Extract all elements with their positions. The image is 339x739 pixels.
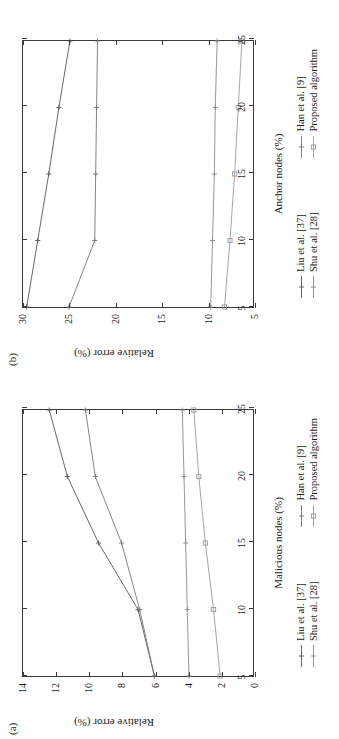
panel-a-legend: Liu et al. [37]Han et al. [9]Shu et al. … [296,377,319,667]
legend-entry: Proposed algorithm [309,8,320,158]
x-tick-top [22,38,27,39]
x-tick-top [22,474,27,475]
legend-plus-marker-icon [309,276,318,298]
y-tick-label: 14 [17,683,28,705]
x-tick-label: 10 [236,605,247,615]
y-tick-right [255,409,256,414]
y-tick-right [23,409,24,414]
x-tick [249,608,254,609]
legend-plus-marker-icon [297,276,306,298]
y-tick [69,303,70,308]
x-tick-top [22,608,27,609]
y-tick-label: 4 [182,683,193,705]
legend-label: Shu et al. [28] [309,213,320,273]
legend-plus-marker-icon [297,136,306,158]
y-tick-right [255,40,256,45]
x-tick [249,38,254,39]
legend-square-marker-icon [309,505,318,527]
y-tick-right [162,40,163,45]
panel-a: (a) Malicious nodes (%) Relative error (… [0,370,339,739]
x-tick-top [22,407,27,408]
y-tick [116,303,117,308]
y-tick [89,672,90,677]
panel-a-tag: (a) [6,723,18,735]
panel-b-tag: (b) [6,353,18,366]
legend-plus-marker-icon [297,505,306,527]
legend-label: Liu et al. [37] [296,583,307,641]
legend-label: Proposed algorithm [309,49,320,132]
legend-plus-marker-icon [309,645,318,667]
y-tick-right [116,40,117,45]
legend-label: Han et al. [9] [296,445,307,500]
figure-rotation-wrapper: (a) Malicious nodes (%) Relative error (… [0,0,339,739]
panel-b-xlabel: Anchor nodes (%) [272,40,284,308]
y-tick-right [23,40,24,45]
x-tick-label: 15 [236,169,247,179]
y-tick-right [56,409,57,414]
y-tick-right [222,409,223,414]
x-tick [249,105,254,106]
y-tick-right [189,409,190,414]
y-tick-label: 25 [63,314,74,336]
y-tick-right [69,40,70,45]
x-tick-top [22,172,27,173]
y-tick-label: 6 [149,683,160,705]
legend-entry: Han et al. [9] [296,8,307,158]
y-tick [56,672,57,677]
panel-a-xlabel: Malicious nodes (%) [272,409,284,677]
y-tick-label: 20 [109,314,120,336]
y-tick-label: 15 [156,314,167,336]
x-tick-top [22,239,27,240]
legend-entry: Shu et al. [28] [309,172,320,298]
y-tick-right [209,40,210,45]
x-tick-top [22,105,27,106]
legend-entry: Liu et al. [37] [296,172,307,298]
panel-b-ylabel: Relative error (%) [34,348,194,360]
panel-a-ylabel: Relative error (%) [34,717,194,729]
x-tick [249,474,254,475]
legend-entry: Proposed algorithm [309,377,320,527]
y-tick [255,672,256,677]
x-tick-label: 5 [236,306,247,311]
panel-a-plot-area [22,409,254,677]
y-tick [162,303,163,308]
panel-a-series-canvas [23,410,253,676]
x-tick [249,239,254,240]
y-tick [23,303,24,308]
legend-square-marker-icon [309,136,318,158]
y-tick [122,672,123,677]
x-tick-label: 25 [236,404,247,414]
y-tick-right [156,409,157,414]
legend-entry: Liu et al. [37] [296,541,307,667]
y-tick-right [89,409,90,414]
legend-label: Proposed algorithm [309,418,320,501]
legend-entry: Han et al. [9] [296,377,307,527]
x-tick [249,306,254,307]
x-tick-top [22,541,27,542]
two-panel-figure: (a) Malicious nodes (%) Relative error (… [0,0,339,739]
y-tick-right [122,409,123,414]
y-tick [209,303,210,308]
legend-label: Liu et al. [37] [296,214,307,272]
legend-label: Han et al. [9] [296,76,307,131]
legend-label: Shu et al. [28] [309,582,320,642]
x-tick-label: 10 [236,236,247,246]
x-tick-label: 15 [236,538,247,548]
x-tick-label: 5 [236,675,247,680]
x-tick [249,407,254,408]
x-tick [249,172,254,173]
y-tick-label: 5 [249,314,260,336]
y-tick [23,672,24,677]
y-tick-label: 2 [215,683,226,705]
y-tick [189,672,190,677]
x-tick [249,675,254,676]
panel-b-plot-area [22,40,254,308]
y-tick [156,672,157,677]
y-tick-label: 10 [83,683,94,705]
y-tick-label: 10 [202,314,213,336]
x-tick-label: 25 [236,35,247,45]
y-tick-label: 8 [116,683,127,705]
x-tick-label: 20 [236,102,247,112]
panel-b: (b) Anchor nodes (%) Relative error (%) … [0,1,339,370]
y-tick [255,303,256,308]
